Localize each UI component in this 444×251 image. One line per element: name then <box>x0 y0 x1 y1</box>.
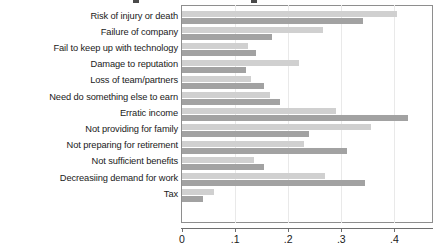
bar-series-light <box>182 157 254 163</box>
category-label: Decreasiing demand for work <box>2 173 178 183</box>
gridline-p4 <box>394 5 395 223</box>
bar-series-light <box>182 173 325 179</box>
bar-series-dark <box>182 148 347 154</box>
category-label: Failure of company <box>2 27 178 37</box>
x-tick-label: .3 <box>337 233 346 245</box>
bar-series-light <box>182 11 397 17</box>
bar-series-dark <box>182 50 256 56</box>
category-label: Not providing for family <box>2 124 178 134</box>
bar-series-light <box>182 141 304 147</box>
bar-series-dark <box>182 34 272 40</box>
x-tick-mark <box>288 228 289 232</box>
bar-series-dark <box>182 18 363 24</box>
bar-series-dark <box>182 83 264 89</box>
x-tick-mark <box>341 228 342 232</box>
x-tick-label: 0 <box>179 233 185 245</box>
category-label: Need do something else to earn <box>2 92 178 102</box>
bar-series-light <box>182 189 214 195</box>
horizontal-bar-chart: Risk of injury or deathFailure of compan… <box>0 0 444 251</box>
bar-series-light <box>182 43 248 49</box>
bar-series-light <box>182 124 371 130</box>
category-label: Loss of team/partners <box>2 75 178 85</box>
bar-series-dark <box>182 164 264 170</box>
gridline-p3 <box>341 5 342 223</box>
x-tick-label: .2 <box>284 233 293 245</box>
category-label: Not preparing for retirement <box>2 140 178 150</box>
x-tick-label: .4 <box>390 233 399 245</box>
category-label: Erratic income <box>2 108 178 118</box>
x-tick-mark <box>394 228 395 232</box>
bar-series-dark <box>182 99 280 105</box>
bar-series-light <box>182 92 270 98</box>
x-tick-label: .1 <box>231 233 240 245</box>
category-label: Fail to keep up with technology <box>2 43 178 53</box>
bar-series-dark <box>182 115 408 121</box>
category-label: Tax <box>2 189 178 199</box>
bar-series-light <box>182 76 251 82</box>
bar-series-light <box>182 27 323 33</box>
bar-series-dark <box>182 131 309 137</box>
bar-series-light <box>182 108 336 114</box>
category-label: Not sufficient benefits <box>2 156 178 166</box>
x-tick-mark <box>182 228 183 232</box>
x-tick-mark <box>235 228 236 232</box>
bar-series-dark <box>182 67 246 73</box>
bar-series-light <box>182 60 299 66</box>
category-label: Damage to reputation <box>2 59 178 69</box>
chart-screenshot: Risk of injury or deathFailure of compan… <box>0 0 444 251</box>
bar-series-dark <box>182 180 365 186</box>
category-label: Risk of injury or death <box>2 11 178 21</box>
bar-series-dark <box>182 196 203 202</box>
